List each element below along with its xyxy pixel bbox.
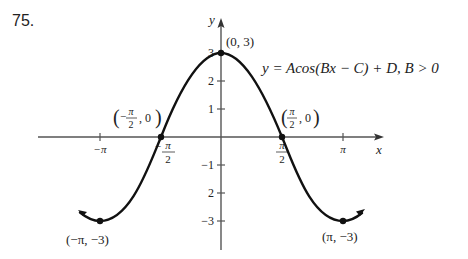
svg-text:, 0: , 0: [299, 111, 311, 125]
svg-text:π: π: [289, 106, 295, 117]
point-half-pi: [279, 134, 285, 140]
point-label-neg-pi: (−π, −3): [66, 232, 109, 247]
x-tick-label: π: [340, 143, 346, 155]
svg-text:2: 2: [279, 153, 285, 165]
point-label-pi: (π, −3): [322, 229, 358, 244]
right-arrow-icon: [356, 209, 365, 216]
svg-text:−: −: [120, 110, 126, 122]
equation-label: y = Acos(Bx − C) + D, B > 0: [260, 60, 439, 77]
svg-text:2: 2: [290, 119, 295, 130]
svg-text:(: (: [281, 106, 288, 129]
y-tick-label: −1: [201, 158, 214, 172]
x-tick-label-half-pi: π 2: [276, 139, 288, 165]
point-label-neg-half-pi: ( − π 2 , 0 ): [113, 106, 162, 130]
y-tick-label: −3: [201, 214, 214, 228]
point-pi: [340, 218, 346, 224]
y-axis-label: y: [207, 12, 215, 27]
y-tick-label: 1: [208, 102, 214, 116]
point-neg-pi: [97, 218, 103, 224]
svg-text:π: π: [165, 139, 171, 151]
point-label-half-pi: ( π 2 , 0 ): [281, 106, 320, 130]
point-peak: [218, 50, 224, 56]
svg-text:): ): [313, 106, 320, 129]
y-tick-label: 2: [208, 186, 214, 200]
graph: y x 3 2 1 −1 2 −3 −π π − π 2 π 2 (0, 3) …: [0, 0, 468, 259]
point-label-peak: (0, 3): [226, 34, 254, 49]
svg-text:2: 2: [165, 153, 171, 165]
svg-text:2: 2: [129, 119, 134, 130]
x-tick-label: −π: [94, 143, 107, 155]
y-tick-label: 2: [208, 74, 214, 88]
point-neg-half-pi: [158, 134, 164, 140]
svg-text:): ): [155, 106, 162, 129]
svg-text:(: (: [113, 106, 120, 129]
x-axis-label: x: [375, 142, 382, 157]
svg-text:, 0: , 0: [139, 111, 151, 125]
svg-text:π: π: [128, 106, 134, 117]
